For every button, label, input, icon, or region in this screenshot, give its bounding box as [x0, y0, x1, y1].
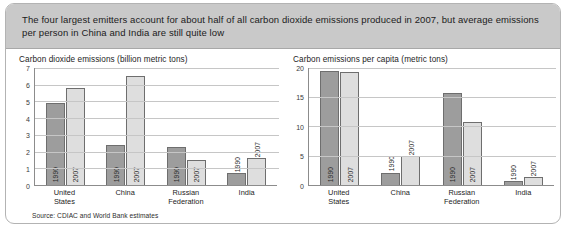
bar-year-label: 1990: [387, 156, 394, 171]
plot-area-per-capita: 19902007199020071990200719902007: [308, 68, 554, 186]
chart-panel-per-capita: Carbon emissions per capita (metric tons…: [283, 55, 560, 219]
x-axis-category-label: UnitedStates: [34, 188, 95, 206]
x-axis-per-capita: UnitedStatesChinaRussianFederationIndia: [308, 188, 554, 206]
y-tick-label: 10: [296, 123, 304, 130]
bar-2007: 2007: [524, 177, 543, 185]
x-axis-category-label: RussianFederation: [431, 188, 493, 206]
bar-1990: 1990: [320, 71, 339, 185]
x-axis-category-label: China: [370, 188, 432, 206]
x-axis-category-label: India: [216, 188, 277, 206]
bar-1990: 1990: [381, 173, 400, 185]
bar-year-label: 1990: [510, 165, 517, 180]
bar-year-label: 2007: [530, 161, 537, 176]
plot-wrapper-per-capita: 05101520 1990200719902007199020071990200…: [293, 68, 560, 186]
gridline: [35, 68, 279, 69]
figure-caption-banner: The four largest emitters account for ab…: [6, 4, 560, 49]
x-axis-category-label: UnitedStates: [308, 188, 370, 206]
gridline: [35, 152, 279, 153]
bar-year-label: 2007: [346, 167, 353, 182]
bar-2007: 2007: [401, 156, 420, 185]
gridline: [309, 97, 556, 98]
source-note: Source: CDIAC and World Bank estimates: [19, 212, 283, 219]
y-tick-label: 5: [26, 98, 30, 105]
gridline: [35, 85, 279, 86]
bar-year-label: 2007: [407, 140, 414, 155]
plot-wrapper-emissions: 01234567 1990200719902007199020071990200…: [19, 68, 283, 186]
gridline: [309, 68, 556, 69]
y-tick-label: 5: [300, 153, 304, 160]
gridline: [35, 118, 279, 119]
bar-year-label: 1990: [449, 167, 456, 182]
gridline: [35, 168, 279, 169]
bar-1990: 1990: [227, 173, 246, 185]
bar-2007: 2007: [66, 88, 85, 185]
y-axis-per-capita: 05101520: [293, 68, 306, 186]
y-tick-label: 1: [26, 166, 30, 173]
y-tick-label: 4: [26, 115, 30, 122]
x-axis-category-label: India: [493, 188, 555, 206]
bar-2007: 2007: [340, 72, 359, 185]
plot-area-emissions: 19902007199020071990200719902007: [34, 68, 277, 186]
y-tick-label: 6: [26, 81, 30, 88]
gridline: [35, 135, 279, 136]
bar-1990: 1990: [504, 181, 523, 185]
y-tick-label: 15: [296, 94, 304, 101]
charts-container: Carbon dioxide emissions (billion metric…: [6, 49, 560, 219]
gridline: [309, 156, 556, 157]
bar-year-label: 1990: [233, 157, 240, 172]
x-axis-category-label: China: [95, 188, 156, 206]
bar-year-label: 2007: [469, 167, 476, 182]
figure-card: The four largest emitters account for ab…: [5, 3, 561, 224]
bar-2007: 2007: [463, 122, 482, 185]
bar-2007: 2007: [187, 160, 206, 185]
gridline: [35, 101, 279, 102]
y-tick-label: 7: [26, 64, 30, 71]
x-axis-category-label: RussianFederation: [156, 188, 217, 206]
bar-1990: 1990: [443, 93, 462, 185]
y-tick-label: 0: [300, 182, 304, 189]
chart-panel-emissions: Carbon dioxide emissions (billion metric…: [6, 55, 283, 219]
y-tick-label: 3: [26, 132, 30, 139]
y-tick-label: 20: [296, 64, 304, 71]
gridline: [309, 126, 556, 127]
y-tick-label: 0: [26, 182, 30, 189]
x-axis-emissions: UnitedStatesChinaRussianFederationIndia: [34, 188, 277, 206]
y-axis-emissions: 01234567: [19, 68, 32, 186]
chart-title-per-capita: Carbon emissions per capita (metric tons…: [293, 55, 560, 64]
chart-title-emissions: Carbon dioxide emissions (billion metric…: [19, 55, 283, 64]
y-tick-label: 2: [26, 149, 30, 156]
bar-year-label: 1990: [326, 167, 333, 182]
bar-2007: 2007: [247, 158, 266, 185]
bar-1990: 1990: [46, 103, 65, 185]
bar-year-label: 2007: [253, 142, 260, 157]
